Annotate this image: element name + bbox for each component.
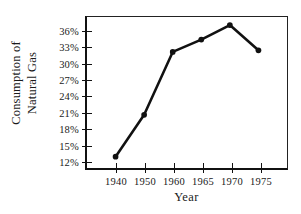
y-axis-title-line-2: Natural Gas <box>25 52 41 114</box>
y-axis-tick-label: 18% <box>59 124 79 135</box>
x-axis-tick <box>116 163 117 173</box>
y-axis-tick <box>82 80 92 81</box>
x-axis-tick-label: 1970 <box>221 176 243 187</box>
line-series-consumption <box>116 25 259 157</box>
y-axis-tick-label: 33% <box>59 42 79 53</box>
y-axis-tick-label: 30% <box>59 58 79 69</box>
data-point <box>170 49 176 55</box>
data-point <box>198 37 204 43</box>
x-axis-tick <box>174 163 175 173</box>
y-axis-tick-label: 15% <box>59 140 79 151</box>
plot-area: 12%15%18%21%24%27%30%33%36% 194019501960… <box>85 16 288 170</box>
data-series-layer <box>87 17 287 168</box>
x-axis-tick-label: 1960 <box>163 176 185 187</box>
data-point <box>141 112 147 118</box>
y-axis-title: Consumption of Natural Gas <box>0 0 50 190</box>
y-axis-title-line-1: Consumption of <box>9 41 25 125</box>
y-axis-tick <box>82 47 92 48</box>
y-axis-tick-label: 21% <box>59 107 79 118</box>
y-axis-tick <box>82 129 92 130</box>
y-axis-tick-label: 12% <box>59 157 79 168</box>
y-axis-tick <box>82 162 92 163</box>
x-axis-tick <box>232 163 233 173</box>
data-point-markers <box>113 22 262 159</box>
y-axis-tick <box>82 113 92 114</box>
y-axis-tick-label: 24% <box>59 91 79 102</box>
data-point <box>227 22 233 28</box>
x-axis-tick-label: 1950 <box>134 176 156 187</box>
data-point <box>113 154 119 160</box>
y-axis-tick-label: 27% <box>59 75 79 86</box>
x-axis-title: Year <box>85 190 288 205</box>
x-axis-tick-label: 1965 <box>192 176 214 187</box>
x-axis-tick <box>145 163 146 173</box>
y-axis-tick <box>82 64 92 65</box>
x-axis-tick <box>203 163 204 173</box>
x-axis-tick <box>261 163 262 173</box>
x-axis-tick-label: 1940 <box>105 176 127 187</box>
chart-figure: Consumption of Natural Gas 12%15%18%21%2… <box>0 0 301 214</box>
x-axis-tick-label: 1975 <box>250 176 272 187</box>
y-axis-tick <box>82 31 92 32</box>
y-axis-tick <box>82 96 92 97</box>
y-axis-tick-label: 36% <box>59 25 79 36</box>
y-axis-tick <box>82 146 92 147</box>
data-point <box>256 47 262 53</box>
